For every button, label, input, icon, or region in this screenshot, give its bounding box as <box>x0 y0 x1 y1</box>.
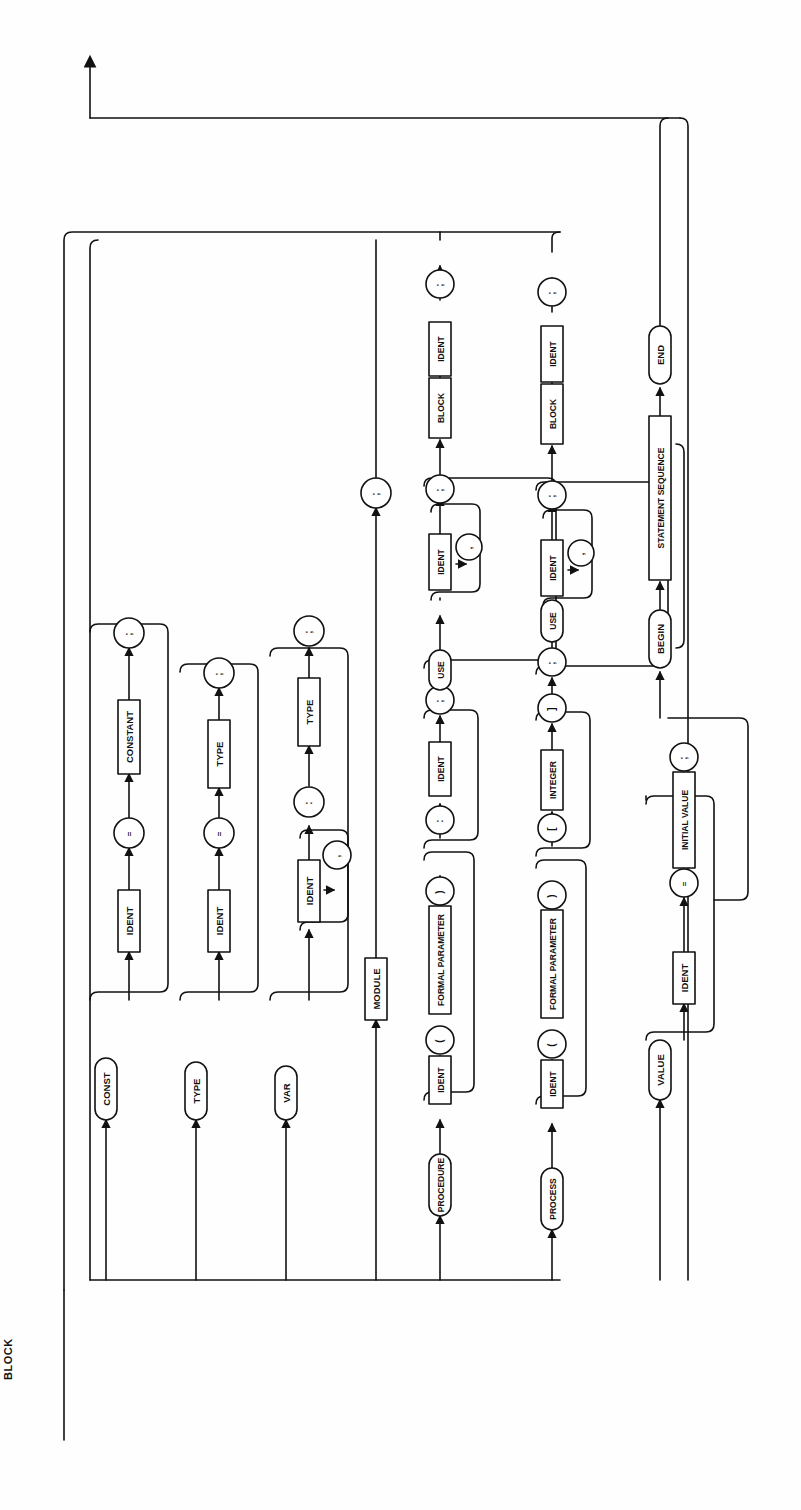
branch-module <box>361 240 391 1280</box>
label-ident-process: IDENT <box>548 1070 558 1096</box>
branch-process <box>536 232 668 1280</box>
label-semicolon-header-process: ; <box>546 661 557 664</box>
syntax-diagram-canvas: BLOCK <box>0 0 801 1510</box>
label-semicolon-type: ; <box>213 672 224 675</box>
label-equals-type: = <box>215 831 224 836</box>
branch-value <box>646 718 748 1280</box>
label-ident-type: IDENT <box>214 907 225 936</box>
label-block-procedure: BLOCK <box>436 392 446 423</box>
label-semicolon-use-process: ; <box>546 494 557 497</box>
label-const: CONST <box>101 1072 112 1105</box>
label-equals-const: = <box>125 831 134 836</box>
label-colon-procedure: : <box>434 819 445 822</box>
label-formal-parameter-procedure: FORMAL PARAMETER <box>436 914 446 1006</box>
label-ident-use-process: IDENT <box>548 554 558 580</box>
label-ident-result-procedure: IDENT <box>436 755 446 781</box>
label-semicolon-use-procedure: ; <box>434 488 445 491</box>
label-rparen-procedure: ) <box>434 890 445 893</box>
label-comma-use-process: , <box>576 553 586 556</box>
label-semicolon-const: ; <box>123 632 134 635</box>
label-integer-process: INTEGER <box>548 761 558 799</box>
label-ident-end-procedure: IDENT <box>436 335 446 361</box>
label-use-procedure: USE <box>436 661 446 679</box>
label-statement-sequence: STATEMENT SEQUENCE <box>656 447 666 548</box>
label-end: END <box>655 345 666 365</box>
label-type-nt: TYPE <box>214 742 225 767</box>
label-semicolon-header-procedure: ; <box>434 699 445 702</box>
label-semicolon-var: ; <box>303 630 314 633</box>
railroad-diagram-svg: CONST IDENT = CONSTANT ; TYPE IDENT = TY… <box>0 0 801 1510</box>
label-rbracket-process: ] <box>546 707 557 710</box>
label-type-keyword: TYPE <box>191 1079 202 1104</box>
label-procedure: PROCEDURE <box>436 1158 446 1213</box>
label-ident-use-procedure: IDENT <box>436 548 446 574</box>
label-begin: BEGIN <box>655 624 666 654</box>
label-ident-procedure: IDENT <box>436 1066 446 1092</box>
label-var: VAR <box>281 1083 292 1102</box>
label-ident-const: IDENT <box>124 907 135 936</box>
label-ident-var: IDENT <box>304 877 315 906</box>
label-semicolon-end-process: ; <box>546 291 557 294</box>
label-module: MODULE <box>371 968 382 1009</box>
label-equals-value: = <box>680 881 689 886</box>
label-ident-value: IDENT <box>679 964 690 993</box>
label-semicolon-module: ; <box>370 492 381 495</box>
label-value: VALUE <box>655 1054 666 1086</box>
label-process: PROCESS <box>548 1178 558 1220</box>
label-initial-value: INITIAL VALUE <box>680 790 690 850</box>
label-use-process: USE <box>548 612 558 630</box>
label-type-var: TYPE <box>304 700 315 725</box>
diagram-title: BLOCK <box>2 1338 14 1380</box>
label-block-process: BLOCK <box>548 398 558 429</box>
label-rparen-process: ) <box>546 894 557 897</box>
label-semicolon-end-procedure: ; <box>434 283 445 286</box>
branch-procedure <box>424 232 556 1280</box>
label-constant: CONSTANT <box>124 711 135 763</box>
label-comma-use-procedure: , <box>464 547 474 550</box>
label-ident-end-process: IDENT <box>548 340 558 366</box>
label-formal-parameter-process: FORMAL PARAMETER <box>548 918 558 1010</box>
label-comma-var: , <box>331 854 342 857</box>
label-colon-var: : <box>303 801 314 804</box>
label-semicolon-value: ; <box>678 756 689 759</box>
